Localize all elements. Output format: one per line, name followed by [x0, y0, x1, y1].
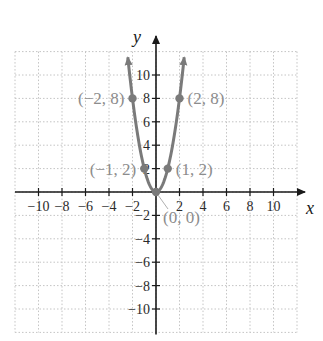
data-point: [175, 94, 183, 102]
y-axis-title: y: [131, 27, 141, 47]
point-label: (−2, 8): [78, 89, 124, 108]
y-tick-label: −2: [135, 208, 150, 223]
point-label: (1, 2): [176, 160, 213, 179]
x-tick-label: 10: [267, 199, 281, 214]
y-tick-label: 4: [143, 138, 150, 153]
y-tick-label: −8: [135, 279, 150, 294]
y-tick-label: 10: [136, 68, 150, 83]
x-tick-label: −10: [28, 199, 50, 214]
y-tick-label: −4: [135, 232, 150, 247]
y-tick-label: 8: [143, 91, 150, 106]
y-tick-label: −6: [135, 255, 150, 270]
x-tick-label: 8: [247, 199, 254, 214]
x-tick-label: 4: [200, 199, 207, 214]
data-point: [140, 164, 148, 172]
parabola-chart: −10−8−6−4−2246810 108642−2−4−6−8−10 (−2,…: [0, 0, 323, 341]
x-tick-label: −6: [78, 199, 93, 214]
y-tick-label: −10: [128, 302, 150, 317]
data-point: [152, 188, 160, 196]
point-label: (2, 8): [188, 89, 225, 108]
point-label: (−1, 2): [90, 160, 136, 179]
y-tick-label: 6: [143, 115, 150, 130]
point-label: (0, 0): [163, 208, 200, 227]
data-point: [128, 94, 136, 102]
x-tick-label: −8: [55, 199, 70, 214]
x-axis-title: x: [305, 198, 314, 218]
x-tick-label: −4: [102, 199, 117, 214]
data-point: [164, 164, 172, 172]
label-leader-line: [158, 195, 168, 209]
x-tick-label: 6: [223, 199, 230, 214]
